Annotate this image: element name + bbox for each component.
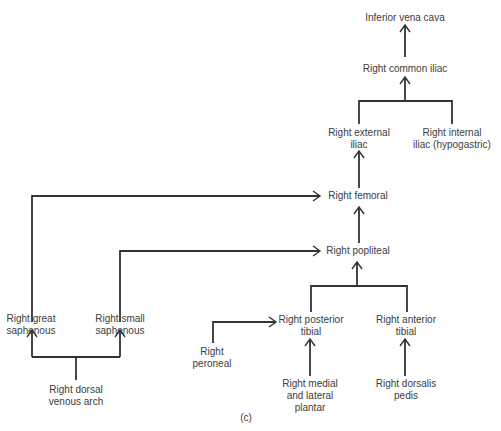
node-label: peroneal [193,358,232,370]
node-right-small-saphenous: Right small saphenous [95,313,144,337]
node-label: Right common iliac [363,63,447,75]
node-label: pedis [376,390,437,402]
node-label: plantar [282,402,338,414]
node-label: Right dorsalis [376,378,437,390]
node-label: Right external [328,127,390,139]
node-label: Right internal [413,127,491,139]
node-label: Right popliteal [326,245,389,257]
node-label: Right posterior [278,314,343,326]
node-label: Right anterior [376,314,436,326]
node-label: venous arch [49,396,103,408]
node-right-dorsal-venous-arch: Right dorsal venous arch [49,384,103,408]
node-right-external-iliac: Right external iliac [328,127,390,151]
node-right-internal-iliac: Right internal iliac (hypogastric) [413,127,491,151]
caption-text: (c) [240,412,252,424]
node-label: Right dorsal [49,384,103,396]
node-label: tibial [376,326,436,338]
node-inferior-vena-cava: Inferior vena cava [365,12,445,24]
node-label: Right femoral [328,190,387,202]
node-label: Right great [7,313,56,325]
node-label: Right [193,346,232,358]
node-label: Inferior vena cava [365,12,445,24]
node-label: Right medial [282,378,338,390]
node-label: saphenous [7,325,56,337]
node-label: iliac [328,139,390,151]
node-right-common-iliac: Right common iliac [363,63,447,75]
node-label: iliac (hypogastric) [413,139,491,151]
node-right-femoral: Right femoral [328,190,387,202]
node-label: and lateral [282,390,338,402]
node-right-popliteal: Right popliteal [326,245,389,257]
node-label: tibial [278,326,343,338]
figure-caption: (c) [240,412,252,424]
node-right-peroneal: Right peroneal [193,346,232,370]
node-right-dorsalis-pedis: Right dorsalis pedis [376,378,437,402]
node-label: saphenous [95,325,144,337]
node-right-anterior-tibial: Right anterior tibial [376,314,436,338]
node-right-medial-lateral-plantar: Right medial and lateral plantar [282,378,338,414]
node-label: Right small [95,313,144,325]
venous-drainage-diagram: Inferior vena cava Right common iliac Ri… [0,0,501,431]
node-right-posterior-tibial: Right posterior tibial [278,314,343,338]
node-right-great-saphenous: Right great saphenous [7,313,56,337]
